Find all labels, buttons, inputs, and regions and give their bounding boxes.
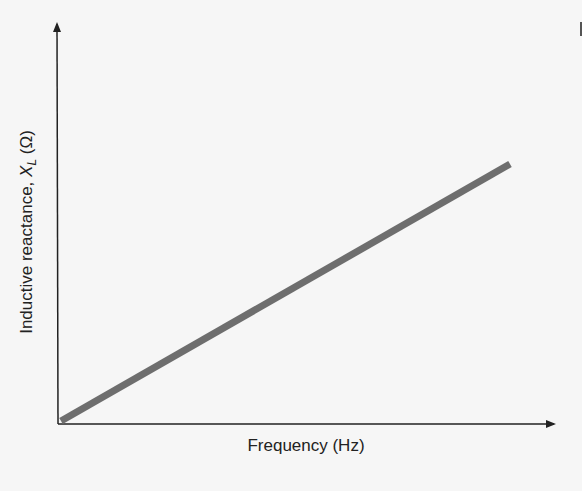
y-axis [57, 24, 58, 424]
reactance-line [61, 164, 510, 421]
y-label-unit: (Ω) [17, 130, 36, 159]
y-label-subscript: L [25, 159, 39, 166]
chart-canvas [0, 0, 582, 491]
y-label-symbol: X [17, 166, 36, 177]
x-axis-label: Frequency (Hz) [0, 436, 582, 456]
y-axis-label: Inductive reactance, XL (Ω) [17, 130, 39, 334]
y-label-main: Inductive reactance, [17, 177, 36, 334]
